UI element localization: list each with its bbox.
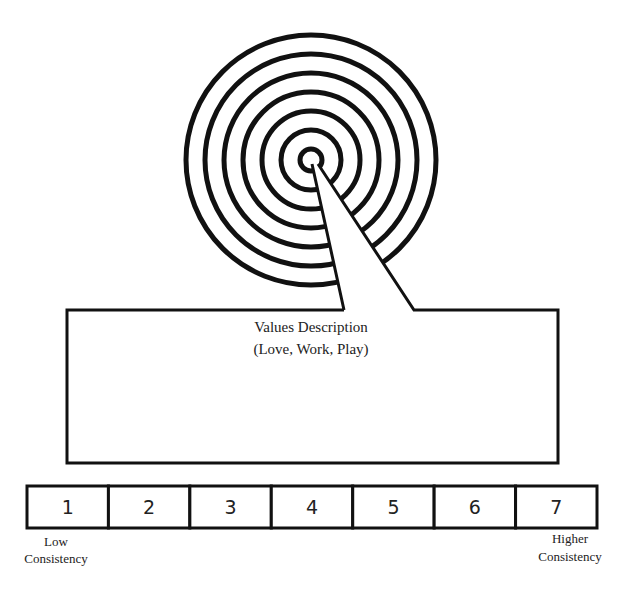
scale-cell-label: 2 bbox=[143, 496, 155, 518]
scale-cell-2: 2 bbox=[108, 486, 189, 528]
callout-title: Values Description bbox=[254, 319, 368, 335]
target-rings bbox=[186, 35, 436, 285]
scale-cell-4: 4 bbox=[271, 486, 352, 528]
scale-cell-label: 3 bbox=[225, 496, 237, 518]
scale-cell-label: 6 bbox=[469, 496, 481, 518]
target-ring bbox=[262, 111, 360, 209]
high-consistency-label-line2: Consistency bbox=[538, 549, 602, 564]
scale-cell-3: 3 bbox=[190, 486, 271, 528]
scale-cell-5: 5 bbox=[353, 486, 434, 528]
scale-cell-7: 7 bbox=[516, 486, 597, 528]
scale-cell-6: 6 bbox=[434, 486, 515, 528]
scale-cell-1: 1 bbox=[27, 486, 108, 528]
scale-cell-label: 1 bbox=[62, 496, 74, 518]
values-diagram: Values Description (Love, Work, Play) 12… bbox=[0, 0, 631, 596]
low-consistency-label-line1: Low bbox=[44, 534, 68, 549]
target-ring bbox=[281, 130, 341, 190]
target-ring bbox=[224, 73, 398, 247]
consistency-scale: 1234567 bbox=[27, 486, 597, 528]
scale-cell-label: 7 bbox=[550, 496, 562, 518]
scale-cell-label: 5 bbox=[387, 496, 399, 518]
scale-cell-label: 4 bbox=[306, 496, 318, 518]
low-consistency-label-line2: Consistency bbox=[24, 551, 88, 566]
callout-subtitle: (Love, Work, Play) bbox=[253, 341, 368, 358]
high-consistency-label-line1: Higher bbox=[552, 531, 589, 546]
target-ring bbox=[205, 54, 417, 266]
